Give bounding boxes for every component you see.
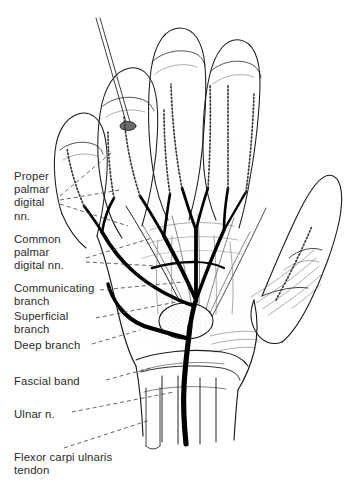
label-common-palmar-digital: Common palmar digital nn.	[14, 233, 64, 273]
anatomy-figure: Proper palmar digital nn. Common palmar …	[0, 0, 350, 487]
label-proper-palmar-digital: Proper palmar digital nn.	[14, 170, 49, 223]
label-deep-branch: Deep branch	[14, 339, 80, 352]
label-fascial-band: Fascial band	[14, 375, 80, 388]
label-superficial-branch: Superficial branch	[14, 310, 68, 336]
label-flexor-carpi-ulnaris-tendon: Flexor carpi ulnaris tendon	[14, 451, 112, 477]
label-ulnar-nerve: Ulnar n.	[14, 408, 55, 421]
label-communicating-branch: Communicating branch	[14, 282, 94, 308]
